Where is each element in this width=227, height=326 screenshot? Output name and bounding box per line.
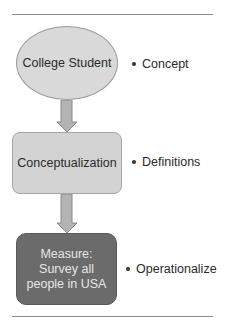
definitions-annotation: Definitions — [132, 155, 200, 169]
measure-node: Measure: Survey all people in USA — [16, 233, 117, 305]
top-divider — [12, 14, 213, 15]
bullet-icon — [132, 62, 136, 66]
concept-node: College Student — [16, 26, 118, 100]
arrow-down-icon — [56, 100, 78, 133]
conceptualization-node: Conceptualization — [12, 132, 122, 194]
bullet-icon — [126, 267, 130, 271]
concept-node-label: College Student — [23, 56, 112, 70]
conceptualization-node-label: Conceptualization — [17, 156, 116, 170]
concept-annotation-text: Concept — [142, 57, 189, 71]
bottom-divider — [12, 316, 213, 317]
operationalize-annotation: Operationalize — [126, 262, 217, 276]
operationalize-annotation-text: Operationalize — [136, 262, 217, 276]
arrow-down-icon — [56, 194, 78, 234]
concept-annotation: Concept — [132, 57, 189, 71]
bullet-icon — [132, 160, 136, 164]
definitions-annotation-text: Definitions — [142, 155, 200, 169]
measure-node-label: Measure: Survey all people in USA — [27, 247, 107, 292]
